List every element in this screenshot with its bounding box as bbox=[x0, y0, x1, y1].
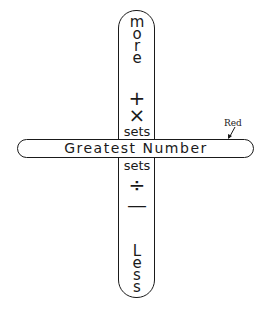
letter-e: e bbox=[118, 52, 156, 64]
divide-symbol: ÷ bbox=[118, 176, 156, 194]
less-label: L e s s bbox=[118, 245, 156, 293]
sets-label-top: sets bbox=[118, 124, 156, 139]
letter-s: s bbox=[118, 281, 156, 293]
times-symbol: × bbox=[118, 106, 156, 124]
minus-symbol: — bbox=[118, 196, 156, 214]
more-label: m o r e bbox=[118, 16, 156, 64]
greatest-number-label: Greatest Number bbox=[17, 140, 255, 157]
arrow-icon bbox=[227, 126, 237, 140]
sets-label-bottom: sets bbox=[118, 158, 156, 173]
